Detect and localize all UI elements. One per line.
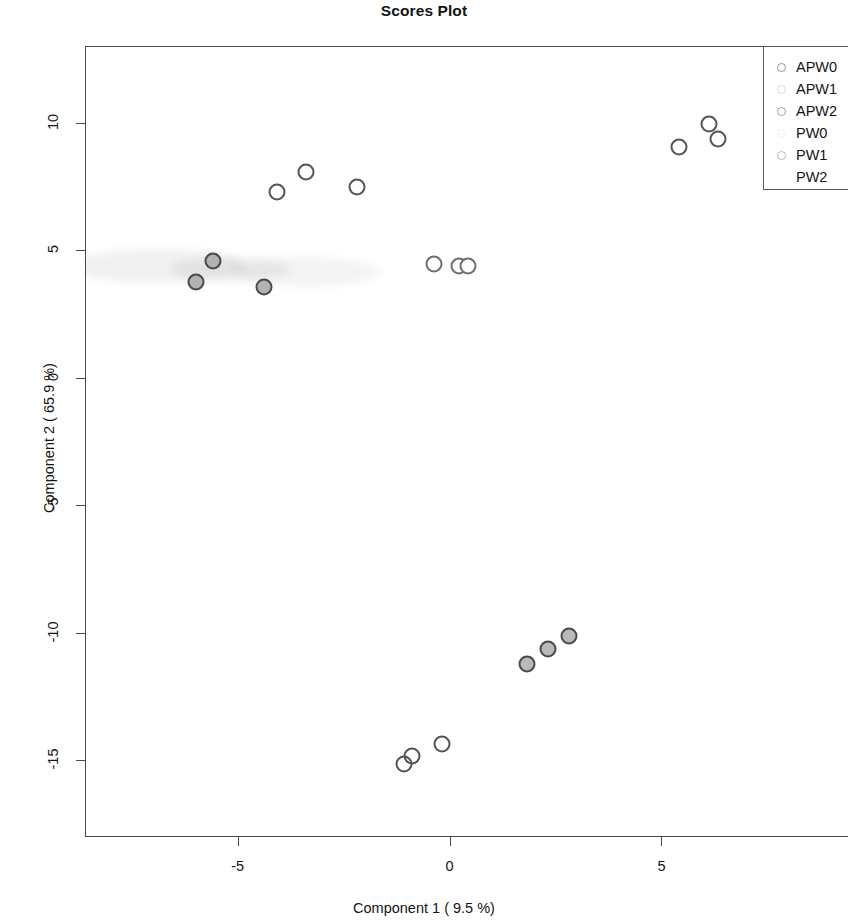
data-point	[205, 253, 222, 270]
data-point	[701, 115, 718, 132]
y-tick-label: 5	[45, 233, 61, 265]
legend-item-label: APW0	[796, 59, 837, 75]
legend-item-label: APW2	[796, 103, 837, 119]
legend: APW0APW1APW2PW0PW1PW2	[763, 46, 848, 190]
y-tick-label: 10	[45, 106, 61, 138]
x-tick-mark	[661, 837, 662, 846]
legend-marker-circle-icon	[777, 151, 786, 160]
x-tick-mark	[450, 837, 451, 846]
data-point	[518, 656, 535, 673]
data-point	[404, 748, 421, 765]
legend-item-label: PW0	[796, 125, 827, 141]
legend-item-pw1[interactable]: PW1	[764, 144, 848, 166]
data-point	[540, 641, 557, 658]
data-point	[188, 273, 205, 290]
y-axis-label: Component 2 ( 65.9 %)	[41, 313, 57, 563]
page-title: Scores Plot	[0, 2, 848, 20]
legend-item-label: PW1	[796, 147, 827, 163]
x-tick-mark	[238, 837, 239, 846]
data-point	[425, 255, 442, 272]
legend-marker-circle-icon	[777, 85, 786, 94]
legend-item-pw0[interactable]: PW0	[764, 122, 848, 144]
y-tick-label: -10	[45, 616, 61, 648]
y-tick-mark	[76, 505, 85, 506]
legend-marker-circle-icon	[777, 129, 786, 138]
plot-area	[85, 46, 848, 837]
x-tick-label: 5	[657, 858, 665, 874]
x-tick-label: -5	[231, 858, 244, 874]
data-point	[434, 735, 451, 752]
x-axis-label: Component 1 ( 9.5 %)	[0, 900, 848, 916]
data-point	[671, 138, 688, 155]
scan-smudge	[85, 249, 246, 283]
scan-smudge	[231, 257, 381, 287]
data-point	[256, 278, 273, 295]
y-tick-mark	[76, 123, 85, 124]
legend-item-apw0[interactable]: APW0	[764, 56, 848, 78]
legend-item-pw2[interactable]: PW2	[764, 166, 848, 188]
y-tick-mark	[76, 633, 85, 634]
data-point	[561, 628, 578, 645]
legend-item-apw1[interactable]: APW1	[764, 78, 848, 100]
data-point	[268, 184, 285, 201]
x-tick-label: 0	[445, 858, 453, 874]
y-tick-mark	[76, 378, 85, 379]
y-tick-mark	[76, 250, 85, 251]
legend-item-label: APW1	[796, 81, 837, 97]
data-point	[709, 130, 726, 147]
legend-item-apw2[interactable]: APW2	[764, 100, 848, 122]
legend-marker-circle-icon	[777, 107, 786, 116]
scores-plot-figure: Scores Plot -505-15-10-50510 Component 1…	[0, 0, 848, 924]
y-tick-label: -15	[45, 743, 61, 775]
data-point	[298, 164, 315, 181]
data-point	[349, 179, 366, 196]
y-tick-mark	[76, 760, 85, 761]
legend-marker-circle-icon	[777, 63, 786, 72]
data-point	[459, 258, 476, 275]
legend-item-label: PW2	[796, 169, 827, 185]
